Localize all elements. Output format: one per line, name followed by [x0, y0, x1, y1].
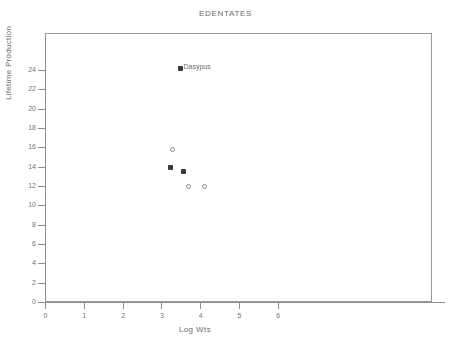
y-tick: 8 — [38, 225, 45, 226]
y-tick-label: 16 — [28, 142, 36, 151]
y-tick-label: 20 — [28, 104, 36, 113]
y-tick: 22 — [38, 89, 45, 90]
scan-speck — [429, 323, 430, 324]
x-tick: 1 — [84, 302, 85, 309]
y-axis-title: Lifetime Production — [4, 26, 13, 100]
x-tick: 3 — [161, 302, 162, 309]
x-axis-title: Log Wts — [45, 325, 345, 334]
y-tick: 16 — [38, 147, 45, 148]
y-tick-label: 22 — [28, 84, 36, 93]
y-tick-label: 6 — [32, 239, 36, 248]
y-tick-label: 12 — [28, 181, 36, 190]
scan-speck — [437, 306, 438, 307]
data-point — [181, 169, 186, 174]
y-tick: 24 — [38, 70, 45, 71]
data-point — [168, 165, 173, 170]
x-tick: 5 — [239, 302, 240, 309]
x-tick-label: 4 — [194, 311, 207, 320]
y-tick: 14 — [38, 167, 45, 168]
x-tick-label: 6 — [272, 311, 285, 320]
x-tick-label: 1 — [78, 311, 91, 320]
chart-title: EDENTATES — [0, 9, 451, 18]
y-tick: 10 — [38, 205, 45, 206]
chart-figure: EDENTATES 024681012141618202224 0123456 … — [0, 0, 451, 348]
data-point — [186, 184, 191, 189]
y-tick-label: 18 — [28, 123, 36, 132]
y-tick-label: 8 — [32, 220, 36, 229]
x-tick: 2 — [123, 302, 124, 309]
x-tick: 6 — [278, 302, 279, 309]
x-tick-label: 5 — [233, 311, 246, 320]
x-tick-label: 2 — [117, 311, 130, 320]
data-point — [202, 184, 207, 189]
y-tick: 18 — [38, 128, 45, 129]
data-point: Dasypus — [178, 66, 183, 71]
y-tick: 0 — [38, 302, 45, 303]
y-tick-label: 0 — [32, 297, 36, 306]
x-tick: 0 — [45, 302, 46, 309]
y-tick-label: 14 — [28, 162, 36, 171]
y-tick-label: 2 — [32, 278, 36, 287]
y-tick-label: 4 — [32, 258, 36, 267]
data-point — [170, 147, 175, 152]
x-tick: 4 — [200, 302, 201, 309]
plot-data-area: Dasypus — [45, 33, 432, 302]
y-tick: 6 — [38, 244, 45, 245]
x-tick-label: 0 — [39, 311, 52, 320]
x-tick-label: 3 — [155, 311, 168, 320]
y-tick: 12 — [38, 186, 45, 187]
scan-speck — [268, 14, 269, 15]
y-tick-label: 10 — [28, 200, 36, 209]
x-axis-line — [45, 302, 445, 303]
y-tick-label: 24 — [28, 65, 36, 74]
data-point-label: Dasypus — [184, 62, 211, 71]
y-tick: 2 — [38, 283, 45, 284]
y-tick: 4 — [38, 263, 45, 264]
y-tick: 20 — [38, 109, 45, 110]
